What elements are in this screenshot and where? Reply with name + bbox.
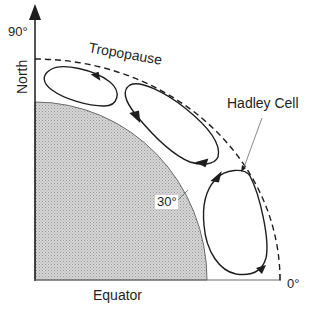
- hadley-leader-line: [243, 118, 262, 170]
- hadley-cell-loop: [203, 170, 266, 274]
- tropopause-label: Tropopause: [87, 39, 163, 68]
- up-arrow-icon: [29, 4, 41, 20]
- equator-label: Equator: [93, 287, 142, 303]
- hadley-cell-label: Hadley Cell: [227, 95, 299, 111]
- arrow-icon: [91, 72, 101, 82]
- arrow-icon: [256, 265, 266, 274]
- latitude-30-label: 30°: [157, 194, 177, 209]
- earth-surface: [35, 102, 207, 280]
- circulation-diagram: 90° North Tropopause Hadley Cell 30° 0° …: [0, 0, 312, 314]
- equator-angle-label: 0°: [287, 276, 299, 291]
- polar-cell-loop: [44, 67, 117, 106]
- arrow-icon: [129, 110, 143, 126]
- north-label: North: [14, 60, 30, 94]
- arrow-icon: [195, 157, 209, 167]
- arrow-icon: [209, 171, 224, 184]
- north-angle-label: 90°: [8, 24, 28, 39]
